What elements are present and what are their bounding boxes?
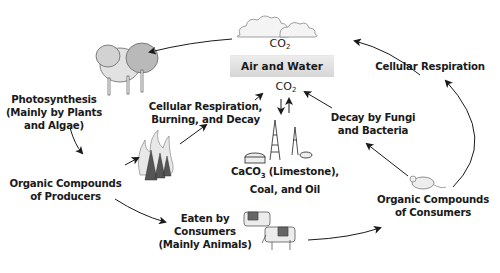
- limestone-coal-oil-label: CaCO3 (Limestone), Coal, and Oil: [225, 165, 345, 196]
- oil-derrick-icon: [245, 120, 312, 163]
- photosynthesis-label: Photosynthesis (Mainly by Plants and Alg…: [0, 93, 108, 132]
- cloud-icon: [237, 16, 317, 37]
- decay-fungi-bacteria-label: Decay by Fungi and Bacteria: [318, 111, 428, 137]
- burning-trees-icon: [138, 130, 173, 180]
- arrow-mouse-to-decay: [367, 144, 408, 176]
- co2-top-label: CO2: [255, 37, 305, 51]
- cellular-respiration-label: Cellular Respiration: [360, 60, 500, 73]
- arrow-co2-to-trees: [150, 39, 232, 52]
- arrow-burning-to-co2: [180, 125, 206, 144]
- organic-compounds-consumers-label: Organic Compounds of Consumers: [368, 193, 498, 219]
- co2-center-label: CO2: [261, 80, 311, 94]
- arrow-decay-to-co2: [305, 92, 332, 108]
- air-and-water-box: Air and Water: [230, 55, 334, 77]
- arrow-consumers-to-respiration: [446, 81, 475, 187]
- mouse-icon: [410, 176, 446, 189]
- organic-compounds-producers-label: Organic Compounds of Producers: [3, 177, 128, 203]
- arrow-producers-to-burning: [125, 158, 138, 165]
- respiration-burning-decay-label: Cellular Respiration, Burning, and Decay: [143, 100, 268, 126]
- eaten-by-consumers-label: Eaten by Consumers (Mainly Animals): [155, 212, 255, 251]
- arrow-cows-to-consumers: [308, 228, 380, 240]
- trees-icon: [96, 43, 158, 95]
